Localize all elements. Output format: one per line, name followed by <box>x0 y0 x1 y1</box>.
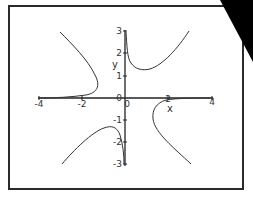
y-tick-label: 2 <box>116 48 122 58</box>
x-tick-label: 4 <box>209 97 215 107</box>
x-tick-label: -2 <box>78 99 87 109</box>
y-tick-label: 0 <box>116 93 122 103</box>
y-tick-label: -3 <box>113 159 122 169</box>
y-axis-label: y <box>112 59 118 70</box>
curve-branch-top-left <box>40 32 98 98</box>
implicit-plot: -4 -2 0 2 4 3 2 1 0 -1 -2 -3 x y <box>0 0 253 200</box>
y-tick-label: -1 <box>113 115 122 125</box>
x-axis-label: x <box>167 103 173 114</box>
curve-branch-top-right <box>126 31 189 70</box>
y-tick-label: 3 <box>116 26 122 36</box>
x-tick-label: -4 <box>35 99 44 109</box>
x-tick-label: 0 <box>124 99 130 109</box>
y-tick-label: 1 <box>116 71 122 81</box>
curve-branch-bottom-right <box>153 98 210 164</box>
